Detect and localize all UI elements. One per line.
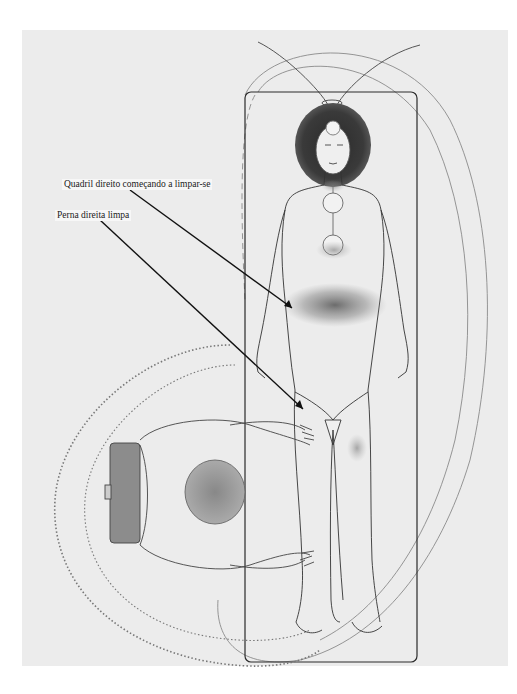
shade-knee — [347, 434, 367, 462]
illustration — [0, 0, 517, 694]
shade-neck — [321, 180, 345, 192]
annotation-arrows — [100, 190, 303, 409]
arrowhead-leg — [295, 400, 303, 409]
arrow-hip — [130, 190, 292, 308]
shade-hip — [283, 283, 387, 327]
crown-funnel — [258, 42, 420, 106]
healer-figure — [105, 420, 314, 569]
annotation-leg-label: Perna direita limpa — [55, 210, 131, 221]
annotation-hip-label: Quadril direito começando a limpar-se — [62, 179, 212, 190]
shade-chest — [316, 241, 352, 259]
page: Quadril direito começando a limpar-se Pe… — [0, 0, 517, 694]
